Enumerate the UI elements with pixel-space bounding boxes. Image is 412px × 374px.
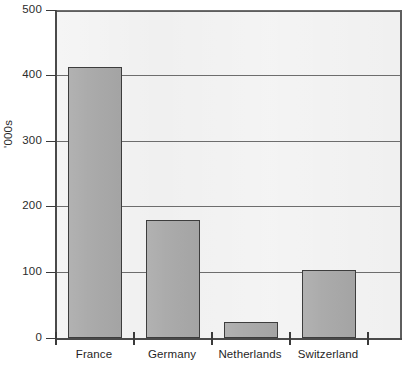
y-tick-200 [46,206,56,207]
y-tick-400 [46,75,56,76]
y-tick-100 [46,272,56,273]
bar-germany [146,220,200,338]
x-label-france: France [55,349,133,361]
x-label-switzerland: Switzerland [289,349,367,361]
bar-netherlands [224,322,278,338]
gridline-500 [57,10,400,11]
x-tick-2 [211,332,213,345]
y-axis-title: '000s [2,120,14,148]
x-label-germany: Germany [133,349,211,361]
x-axis [55,338,402,340]
y-tick-300 [46,141,56,142]
y-axis [55,10,57,340]
y-tick-label-100: 100 [0,266,42,278]
x-label-netherlands: Netherlands [211,349,289,361]
bar-france [68,67,122,338]
y-tick-500 [46,10,56,11]
bar-chart: 500 400 300 200 100 0 France Germany Net… [0,0,412,374]
y-tick-label-500: 500 [0,4,42,16]
y-tick-label-200: 200 [0,200,42,212]
x-tick-0 [55,332,57,345]
bar-switzerland [302,270,356,338]
y-tick-label-0: 0 [0,332,42,344]
x-tick-1 [133,332,135,345]
x-tick-4 [367,332,369,345]
y-tick-label-400: 400 [0,69,42,81]
x-tick-3 [289,332,291,345]
